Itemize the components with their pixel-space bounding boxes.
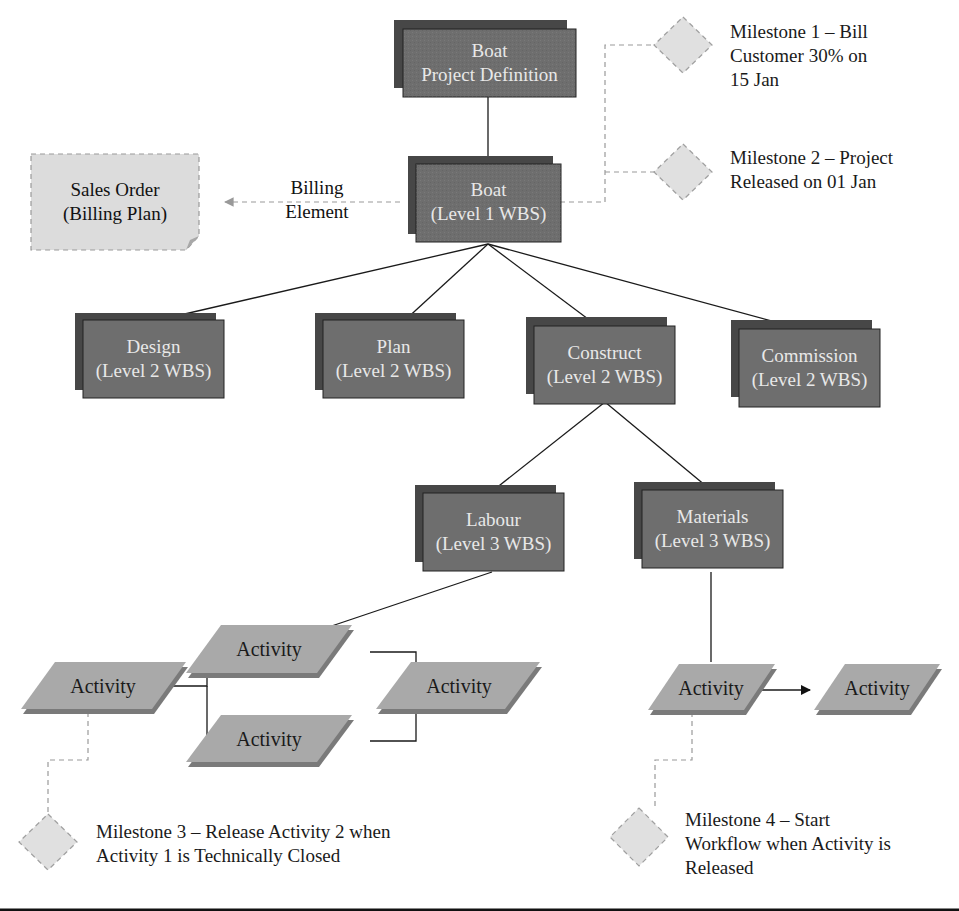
activity-4[interactable]: Activity	[392, 674, 526, 698]
milestone-4-label: Milestone 4 – Start Workflow when Activi…	[685, 808, 891, 880]
level3-materials-label: Materials (Level 3 WBS)	[642, 505, 783, 553]
milestone-2-label: Milestone 2 – Project Released on 01 Jan	[730, 146, 893, 194]
billing-element-label: Billing Element	[262, 176, 372, 224]
level3-labour-label: Labour (Level 3 WBS)	[423, 508, 564, 556]
level1-wbs-label: Boat (Level 1 WBS)	[416, 178, 561, 226]
level2-commission-label: Commission (Level 2 WBS)	[739, 344, 880, 392]
activity-5[interactable]: Activity	[656, 676, 766, 700]
milestone-1-label: Milestone 1 – Bill Customer 30% on 15 Ja…	[730, 20, 868, 92]
level2-plan-label: Plan (Level 2 WBS)	[323, 335, 464, 383]
level2-construct-label: Construct (Level 2 WBS)	[534, 341, 675, 389]
activity-6[interactable]: Activity	[822, 676, 932, 700]
activity-2[interactable]: Activity	[202, 637, 336, 661]
activity-1[interactable]: Activity	[36, 674, 170, 698]
diagram-canvas	[0, 0, 959, 911]
level2-design-label: Design (Level 2 WBS)	[83, 335, 224, 383]
sales-order-label: Sales Order (Billing Plan)	[31, 178, 199, 226]
activity-3[interactable]: Activity	[202, 727, 336, 751]
project-definition-label: Boat Project Definition	[403, 39, 576, 87]
milestone-diamonds	[19, 17, 712, 870]
milestone-3-label: Milestone 3 – Release Activity 2 when Ac…	[96, 820, 390, 868]
